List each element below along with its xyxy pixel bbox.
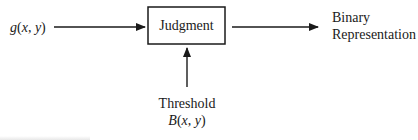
judgment-label: Judgment [159,18,214,33]
clipped-caption [0,136,90,140]
threshold-symbol: B(x, y) [168,113,206,129]
diagram-canvas: g(x, y) Judgment Binary Representation T… [0,0,418,140]
judgment-node: Judgment [148,7,225,44]
threshold-label: Threshold [159,96,216,111]
output-label-line2: Representation [332,27,416,42]
output-label-line1: Binary [332,10,370,25]
input-label: g(x, y) [10,20,46,36]
